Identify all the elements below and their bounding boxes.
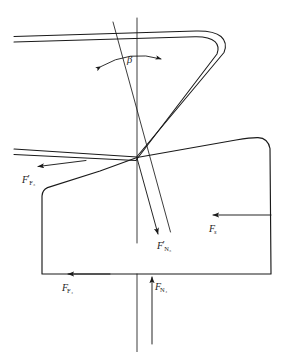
label-subscript: F₃ (29, 179, 35, 186)
label-subscript: N₄ (160, 286, 167, 293)
label-symbol: β (127, 54, 132, 65)
label-friction-force-4: FF₄ (62, 278, 73, 294)
strip-inner-edge (14, 37, 218, 160)
force-vector-normal-3 (137, 158, 158, 234)
strip-outer-edge (14, 31, 225, 157)
label-normal-force-3: F′N₃ (157, 236, 171, 252)
diagram-canvas (0, 0, 284, 352)
free-body-diagram-figure: F′F₃ F′N₃ FF₄ FN₄ Fs β (0, 0, 284, 352)
label-subscript: s (214, 228, 217, 235)
force-vector-friction-3 (38, 161, 86, 167)
label-subscript: N₃ (164, 245, 171, 252)
label-normal-force-4: FN₄ (155, 277, 167, 293)
label-side-force: Fs (209, 219, 217, 235)
label-subscript: F₄ (67, 287, 73, 294)
label-friction-force-3: F′F₃ (22, 170, 35, 186)
label-angle-beta: β (127, 50, 132, 66)
